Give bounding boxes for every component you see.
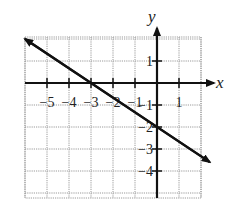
y-tick-label: −1: [138, 98, 153, 113]
y-tick-label: −3: [138, 142, 153, 157]
y-axis-label: y: [146, 7, 156, 26]
x-tick-label: −5: [40, 95, 55, 110]
grid-lines: [25, 37, 201, 198]
x-tick-label: −3: [84, 95, 99, 110]
axes: [25, 28, 214, 198]
x-tick-label: −4: [62, 95, 77, 110]
x-tick-label: 1: [176, 95, 183, 110]
y-tick-label: −4: [138, 164, 153, 179]
x-axis-label: x: [215, 73, 224, 92]
coordinate-graph: −5−4−3−2−111−1−2−3−4 x y: [0, 0, 228, 212]
y-tick-label: 1: [146, 54, 153, 69]
tick-labels: −5−4−3−2−111−1−2−3−4: [40, 54, 183, 179]
